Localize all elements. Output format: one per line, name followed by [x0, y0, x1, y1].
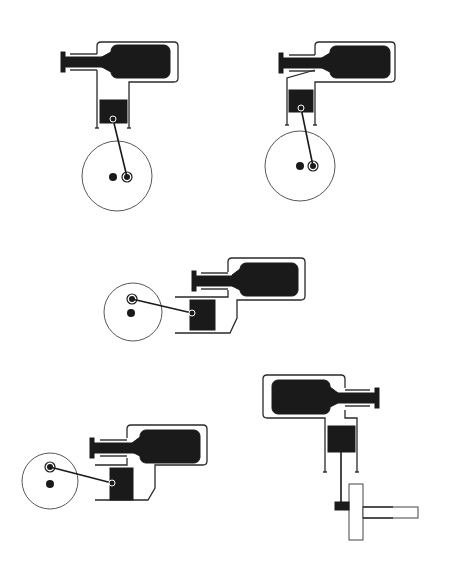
crankshaft	[109, 173, 117, 181]
displacer	[111, 45, 170, 78]
stirling-engine-diagram	[0, 0, 450, 574]
crank-pin	[310, 163, 316, 169]
rod-end-cap	[279, 53, 283, 73]
piston-pin	[110, 116, 116, 122]
engine-top-left	[61, 42, 178, 211]
crankshaft	[46, 480, 54, 488]
engine-top-right	[265, 42, 395, 201]
displacer-rod	[335, 393, 375, 403]
output-shaft	[363, 507, 418, 518]
flywheel	[349, 484, 363, 540]
crank-pin	[124, 174, 130, 180]
displacer-rod	[195, 276, 235, 286]
crank-disc	[82, 141, 152, 211]
engine-middle	[104, 258, 305, 341]
rod-end-cap	[375, 388, 379, 408]
crankshaft	[127, 309, 135, 317]
displacer	[330, 46, 390, 78]
rod-end-cap	[61, 52, 65, 72]
piston-pin	[298, 105, 304, 111]
rod-end-cap	[90, 438, 94, 458]
displacer	[140, 430, 200, 463]
piston-pin	[189, 310, 195, 316]
displacer-rod	[93, 443, 135, 453]
crank-pin	[47, 464, 53, 470]
power-piston	[328, 426, 355, 452]
crank-hub	[335, 502, 349, 510]
crank-pin	[129, 296, 135, 302]
displacer-rod	[64, 57, 104, 67]
crankshaft	[296, 162, 304, 170]
rod-end-cap	[192, 271, 196, 291]
displacer	[272, 380, 330, 414]
engine-bottom-left	[22, 425, 207, 509]
displacer-rod	[282, 58, 322, 68]
piston-pin	[109, 480, 115, 486]
displacer	[240, 263, 298, 296]
engine-bottom-right	[263, 375, 418, 540]
